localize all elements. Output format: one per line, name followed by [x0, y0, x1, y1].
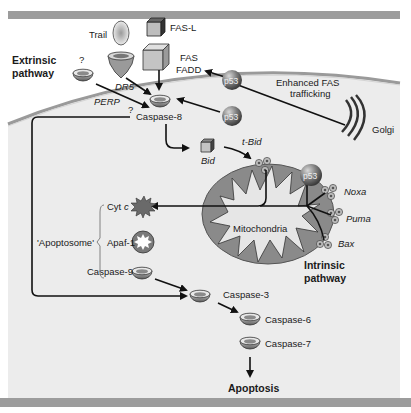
dr5-receptor-icon — [108, 52, 134, 78]
caspase-3-label: Caspase-3 — [223, 289, 269, 300]
apaf-1-label: Apaf-1 — [107, 237, 135, 248]
apoptosis-pathway-diagram: Extrinsic pathway ? Trail DR5 FAS-L FAS … — [0, 0, 411, 413]
unknown-receptor-question: ? — [79, 54, 84, 65]
extrinsic-pathway-label-2: pathway — [12, 67, 54, 79]
mitochondria-label: Mitochondria — [233, 223, 288, 234]
apoptosome-label: 'Apoptosome' — [37, 237, 94, 248]
bid-label: Bid — [201, 155, 215, 166]
perp-question: ? — [128, 104, 133, 115]
p53-label-mid: p53 — [224, 112, 238, 122]
cyt-c-label: Cyt c — [107, 201, 129, 212]
unknown-receptor-icon — [73, 69, 93, 81]
caspase-6-label: Caspase-6 — [265, 314, 311, 325]
bax-label: Bax — [338, 238, 356, 249]
intrinsic-pathway-label-2: pathway — [304, 272, 346, 284]
apaf-1-icon — [132, 231, 154, 253]
cell-cytoplasm — [8, 73, 400, 398]
puma-label: Puma — [346, 213, 371, 224]
golgi-label: Golgi — [372, 124, 394, 135]
fadd-label: FADD — [176, 64, 201, 75]
p53-label-mito: p53 — [303, 171, 317, 181]
bid-icon — [201, 139, 214, 152]
intrinsic-pathway-label: Intrinsic — [304, 259, 345, 271]
p53-label-top: p53 — [224, 76, 238, 86]
fas-label: FAS — [180, 52, 198, 63]
t-bid-label: t-Bid — [242, 136, 262, 147]
extrinsic-pathway-label: Extrinsic — [12, 54, 57, 66]
caspase-9-label: Caspase-9 — [87, 266, 133, 277]
bottom-band — [0, 398, 411, 407]
trail-label: Trail — [89, 29, 107, 40]
fas-receptor-icon — [143, 44, 169, 70]
caspase-8-label: Caspase-8 — [136, 111, 182, 122]
trafficking-label: trafficking — [290, 88, 330, 99]
caspase-7-label: Caspase-7 — [265, 338, 311, 349]
fas-l-icon — [147, 18, 165, 36]
fas-l-label: FAS-L — [170, 22, 196, 33]
enhanced-fas-label: Enhanced FAS — [276, 77, 339, 88]
top-band — [8, 11, 400, 19]
trail-ligand-icon — [113, 21, 129, 45]
noxa-label: Noxa — [344, 186, 366, 197]
perp-label: PERP — [94, 96, 121, 107]
apoptosis-label: Apoptosis — [228, 382, 279, 394]
